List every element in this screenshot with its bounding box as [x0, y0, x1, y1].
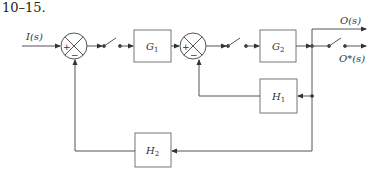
sum1-minus-sign: − [71, 50, 79, 60]
input-label: I(s) [25, 31, 43, 42]
sum1-plus-sign: + [63, 42, 71, 52]
sum2-plus-sign: + [182, 42, 190, 52]
output-label: O(s) [340, 15, 361, 26]
sum2-minus-sign: − [190, 50, 198, 60]
sampler-switch-2 [227, 38, 248, 48]
sampler-switch-1 [103, 38, 122, 48]
block-diagram: I(s) O(s) O*(s) + − + − G1 G2 H1 H2 [0, 0, 371, 181]
sampler-switch-3 [328, 38, 347, 48]
sampled-output-label: O*(s) [339, 53, 365, 64]
h1-feedback-line [199, 60, 260, 96]
h2-feedback-line [75, 60, 135, 151]
